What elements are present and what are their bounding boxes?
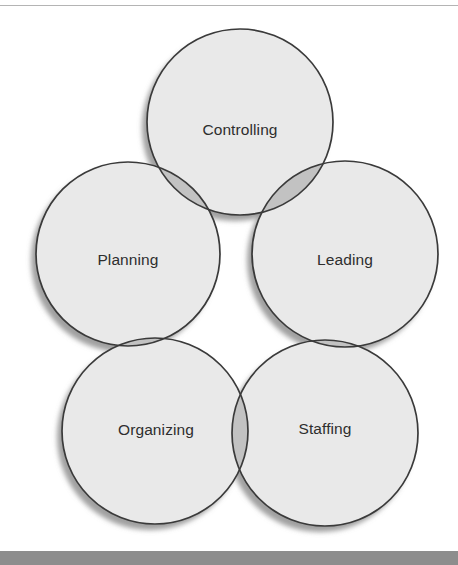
circle-label-planning: Planning <box>97 251 158 268</box>
circle-label-controlling: Controlling <box>202 121 277 138</box>
circle-label-staffing: Staffing <box>298 420 351 437</box>
circle-label-organizing: Organizing <box>118 421 194 438</box>
circle-label-leading: Leading <box>317 251 373 268</box>
venn-diagram: ControllingPlanningLeadingOrganizingStaf… <box>0 0 458 565</box>
figure-root: ControllingPlanningLeadingOrganizingStaf… <box>0 0 458 565</box>
bottom-accent-bar <box>0 551 458 565</box>
